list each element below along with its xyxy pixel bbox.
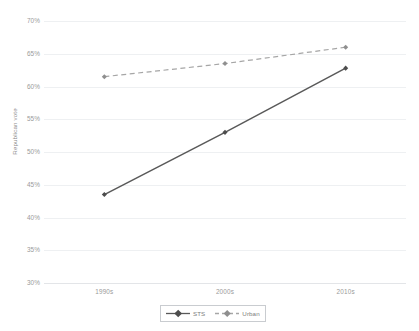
legend-label-sts: STS xyxy=(193,310,205,317)
gridline xyxy=(44,283,406,284)
y-tick-label: 55% xyxy=(14,115,40,122)
legend-entry-sts[interactable]: STS xyxy=(165,309,205,318)
y-tick-label: 70% xyxy=(14,17,40,24)
series-layer xyxy=(44,21,406,283)
line-chart: Republican vote 70%65%60%55%50%45%40%35%… xyxy=(0,0,419,331)
plot-area xyxy=(44,21,406,283)
data-point-marker[interactable] xyxy=(222,61,227,66)
y-tick-label: 40% xyxy=(14,214,40,221)
y-tick-label: 45% xyxy=(14,181,40,188)
series-urban xyxy=(102,45,348,80)
legend-entry-urban[interactable]: Urban xyxy=(214,309,259,318)
data-point-marker[interactable] xyxy=(343,45,348,50)
y-axis-tick-labels: 70%65%60%55%50%45%40%35%30% xyxy=(10,0,40,331)
legend-label-urban: Urban xyxy=(242,310,259,317)
chart-legend: STS Urban xyxy=(160,305,266,322)
x-tick-label: 1990s xyxy=(95,288,113,295)
y-tick-label: 50% xyxy=(14,148,40,155)
y-tick-label: 35% xyxy=(14,246,40,253)
legend-line-urban-icon xyxy=(214,309,240,318)
data-point-marker[interactable] xyxy=(102,192,107,197)
x-axis-tick-labels: 1990s2000s2010s xyxy=(44,288,406,302)
y-tick-label: 30% xyxy=(14,279,40,286)
legend-line-sts-icon xyxy=(165,309,191,318)
y-tick-label: 60% xyxy=(14,83,40,90)
x-tick-label: 2010s xyxy=(337,288,355,295)
y-tick-label: 65% xyxy=(14,50,40,57)
series-sts xyxy=(102,66,348,198)
data-point-marker[interactable] xyxy=(102,74,107,79)
x-tick-label: 2000s xyxy=(216,288,234,295)
